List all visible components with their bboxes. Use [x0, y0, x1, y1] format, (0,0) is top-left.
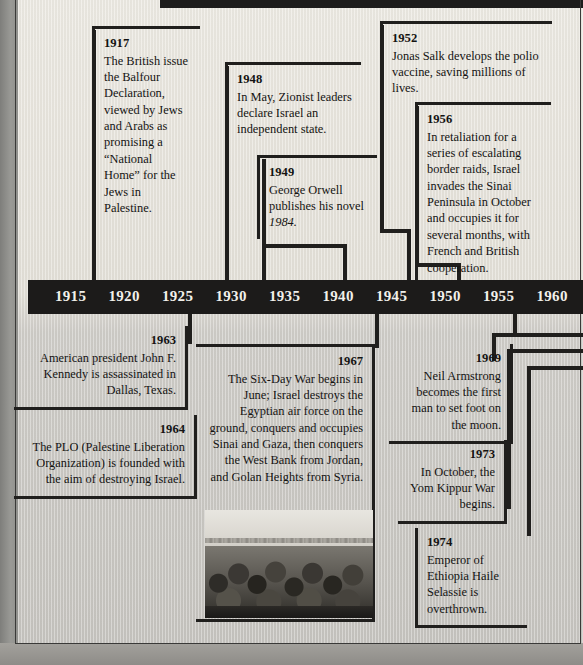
event-box-1974[interactable]: 1974 Emperor of Ethiopia Haile Selassie … [415, 528, 527, 628]
axis-tick-1920: 1920 [109, 288, 140, 305]
top-bar-stub [160, 0, 583, 8]
connector-1973-h [507, 349, 583, 353]
connector-1952-down [407, 229, 411, 284]
event-box-1969[interactable]: 1969 Neil Armstrong becomes the first ma… [389, 344, 513, 444]
axis-tick-1960: 1960 [537, 288, 568, 305]
photo-horizon [205, 538, 373, 543]
connector-1949-down [343, 244, 347, 284]
event-text: George Orwell publishes his novel 1984. [269, 182, 368, 231]
event-box-1956[interactable]: 1956 In retaliation for a series of esca… [415, 102, 551, 284]
axis-tick-1935: 1935 [269, 288, 300, 305]
event-text: The Six-Day War begins in June; Israel d… [205, 371, 363, 486]
event-text: In October, the Yom Kippur War begins. [407, 464, 495, 513]
event-box-1917[interactable]: 1917 The British issue the Balfour Decla… [92, 26, 200, 224]
connector-1949-h [262, 244, 346, 248]
event-year: 1917 [104, 35, 191, 52]
event-box-1949[interactable]: 1949 George Orwell publishes his novel 1… [257, 155, 377, 239]
axis-tick-1940: 1940 [323, 288, 354, 305]
axis-tick-1930: 1930 [216, 288, 247, 305]
connector-1963 [188, 314, 192, 344]
axis-tick-1915: 1915 [55, 288, 86, 305]
event-year: 1974 [427, 534, 518, 551]
event-text: In May, Zionist leaders declare Israel a… [237, 89, 352, 138]
event-year: 1973 [407, 446, 495, 463]
historical-photograph [205, 510, 373, 618]
event-text: Neil Armstrong becomes the first man to … [398, 368, 501, 434]
event-year: 1948 [237, 71, 352, 88]
event-box-1952[interactable]: 1952 Jonas Salk develops the polio vacci… [380, 21, 552, 105]
event-text: Jonas Salk develops the polio vaccine, s… [392, 48, 543, 97]
timeline-page: 1917 The British issue the Balfour Decla… [0, 0, 583, 665]
event-text: The British issue the Balfour Declaratio… [104, 53, 191, 217]
event-year: 1969 [398, 350, 501, 367]
axis-tick-1955: 1955 [483, 288, 514, 305]
event-year: 1967 [205, 353, 363, 370]
event-year: 1964 [23, 421, 185, 438]
axis-tick-1925: 1925 [162, 288, 193, 305]
event-text: In retaliation for a series of escalatin… [427, 129, 542, 276]
event-text: American president John F. Kennedy is as… [23, 350, 176, 399]
event-box-1964[interactable]: 1964 The PLO (Palestine Liberation Organ… [14, 415, 197, 499]
connector-1969-h [492, 333, 583, 337]
event-box-1973[interactable]: 1973 In October, the Yom Kippur War begi… [398, 440, 507, 524]
event-box-1963[interactable]: 1963 American president John F. Kennedy … [14, 326, 188, 410]
scan-edge-bottom [0, 643, 583, 665]
connector-1967 [375, 314, 379, 348]
event-text-main: George Orwell publishes his novel [269, 183, 364, 213]
event-text-italic: 1984. [269, 215, 297, 229]
event-year: 1956 [427, 111, 542, 128]
photo-foreground-rail [205, 606, 373, 618]
event-year: 1963 [23, 332, 176, 349]
connector-1974-h [527, 366, 583, 370]
event-year: 1949 [269, 164, 368, 181]
axis-tick-1950: 1950 [430, 288, 461, 305]
connector-1974-v [527, 366, 531, 536]
event-year: 1952 [392, 30, 543, 47]
event-box-1948[interactable]: 1948 In May, Zionist leaders declare Isr… [225, 62, 361, 146]
connector-1952-h [380, 229, 410, 233]
timeline-axis: 1915192019251930193519401945195019551960 [28, 280, 583, 314]
event-text: The PLO (Palestine Liberation Organizati… [23, 439, 185, 488]
photo-crowd [205, 546, 373, 609]
event-text: Emperor of Ethiopia Haile Selassie is ov… [427, 552, 518, 618]
axis-tick-1945: 1945 [376, 288, 407, 305]
